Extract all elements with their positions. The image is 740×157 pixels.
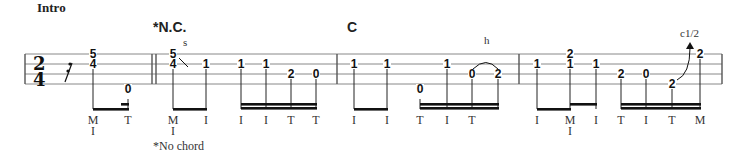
note: 1I: [202, 57, 210, 127]
note: 54MI: [168, 47, 179, 138]
fret-number: 2: [618, 67, 625, 81]
picking-finger: I: [535, 113, 539, 127]
time-signature: 2 4: [33, 53, 46, 90]
chord-symbol: C: [347, 19, 357, 35]
picking-finger: I: [385, 113, 389, 127]
beam: [420, 103, 499, 106]
slide-icon: [179, 58, 188, 67]
fret-number: 1: [384, 57, 391, 71]
technique-label: c1/2: [680, 27, 699, 39]
note: 1I: [443, 57, 451, 127]
beam: [241, 107, 317, 110]
beams: [93, 103, 701, 111]
note: 2M: [695, 47, 706, 127]
time-signature-bottom: 4: [33, 69, 46, 90]
fret-number: 0: [125, 82, 132, 96]
beam: [537, 108, 571, 111]
picking-finger: T: [287, 113, 295, 127]
fret-number: 1: [444, 57, 451, 71]
note: 21MI: [565, 47, 576, 138]
picking-finger: I: [171, 124, 175, 138]
note: 2T: [617, 67, 625, 127]
technique-label: h: [484, 34, 490, 46]
note: 1I: [262, 57, 270, 127]
footnote: *No chord: [153, 139, 204, 153]
fret-number: 1: [593, 57, 600, 71]
fret-number: 4: [170, 57, 177, 71]
fret-number: 0: [643, 67, 650, 81]
note: 2T: [287, 67, 295, 127]
picking-finger: I: [239, 113, 243, 127]
note: 1I: [350, 57, 358, 127]
fret-number: 1: [238, 57, 245, 71]
technique-marks: shc1/2: [183, 27, 699, 48]
section-title: Intro: [37, 0, 66, 15]
fret-number: 2: [697, 47, 704, 61]
technique-label: s: [183, 36, 187, 48]
chord-symbols: *N.C.C: [153, 19, 357, 35]
fret-number: 2: [288, 67, 295, 81]
note: 2: [494, 67, 502, 109]
picking-finger: M: [695, 113, 706, 127]
beam: [621, 107, 701, 110]
fret-number: 0: [313, 67, 320, 81]
beam: [173, 108, 207, 111]
note: 0T: [468, 67, 476, 127]
picking-finger: T: [416, 113, 424, 127]
picking-finger: I: [445, 113, 449, 127]
picking-finger: I: [594, 113, 598, 127]
fret-number: 1: [567, 57, 574, 71]
beam: [93, 108, 129, 111]
picking-finger: T: [312, 113, 320, 127]
picking-finger: I: [568, 124, 572, 138]
beam: [621, 103, 701, 106]
fret-number: 2: [669, 77, 676, 91]
picking-finger: I: [644, 113, 648, 127]
beam: [121, 103, 129, 106]
picking-finger: I: [264, 113, 268, 127]
chord-symbol: *N.C.: [153, 19, 186, 35]
fret-number: 1: [351, 57, 358, 71]
beam: [420, 107, 499, 110]
fret-number: 4: [90, 57, 97, 71]
fret-number: 2: [495, 67, 502, 81]
note: 2T: [668, 77, 676, 127]
picking-finger: T: [468, 113, 476, 127]
note: 1I: [533, 57, 541, 127]
beam: [570, 103, 597, 106]
note: 1I: [592, 57, 600, 127]
picking-finger: T: [668, 113, 676, 127]
sixteenth-rest-icon: [65, 62, 72, 82]
notes: 54MI0T54MI1I1I1I2T0T1I1I0T1I0T21I21MI1I2…: [88, 47, 706, 138]
fret-number: 0: [417, 82, 424, 96]
fret-number: 1: [203, 57, 210, 71]
note: 0T: [312, 67, 320, 127]
picking-finger: I: [352, 113, 356, 127]
note: 0I: [642, 67, 650, 127]
note: 1I: [383, 57, 391, 127]
picking-finger: I: [91, 124, 95, 138]
beam: [354, 108, 388, 111]
fret-number: 0: [469, 67, 476, 81]
tablature-score: Intro *N.C.C 2 4 shc1/2 54MI0T54MI1I1I1I…: [0, 0, 740, 157]
note: 1I: [237, 57, 245, 127]
fret-number: 1: [534, 57, 541, 71]
note: 54MI: [88, 47, 99, 138]
beam: [241, 103, 317, 106]
picking-finger: T: [617, 113, 625, 127]
picking-finger: I: [204, 113, 208, 127]
fret-number: 1: [263, 57, 270, 71]
picking-finger: T: [124, 113, 132, 127]
